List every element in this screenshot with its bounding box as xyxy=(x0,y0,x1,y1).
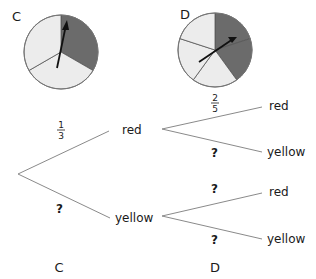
prob-red-red-denominator: 5 xyxy=(212,104,218,114)
spinner-c-label: C xyxy=(12,9,21,24)
prob-yellow-yellow: ? xyxy=(211,233,218,247)
node-first-yellow: yellow xyxy=(115,211,153,225)
column-label-c: C xyxy=(54,260,63,275)
node-first-red: red xyxy=(122,123,142,137)
prob-yellow-red: ? xyxy=(211,182,218,196)
prob-red-yellow: ? xyxy=(211,146,218,160)
branch-yellow-red xyxy=(162,193,262,216)
prob-first-red-denominator: 3 xyxy=(58,131,64,141)
spinner-c: C xyxy=(12,9,98,89)
column-label-d: D xyxy=(210,260,220,275)
node-red-red: red xyxy=(269,99,289,113)
node-yellow-red: red xyxy=(269,185,289,199)
prob-red-red: 2 5 xyxy=(211,93,219,114)
node-red-yellow: yellow xyxy=(267,145,305,159)
node-yellow-yellow: yellow xyxy=(267,232,305,246)
probability-diagram: C D red yellow 1 3 ? red yellow 2 5 ? re… xyxy=(0,0,316,279)
prob-first-red-numerator: 1 xyxy=(58,120,64,130)
branch-first-yellow xyxy=(18,174,110,218)
prob-red-red-numerator: 2 xyxy=(212,93,218,103)
prob-first-red: 1 3 xyxy=(57,120,65,141)
spinner-d-label: D xyxy=(180,7,190,22)
spinner-d: D xyxy=(178,7,252,87)
prob-first-yellow: ? xyxy=(56,202,63,216)
